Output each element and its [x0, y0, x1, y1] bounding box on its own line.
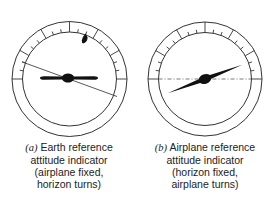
- scale-tick: [251, 70, 254, 71]
- scale-tick: [93, 29, 98, 38]
- scale-tick: [228, 30, 233, 39]
- scale-tick: [213, 30, 214, 33]
- scale-tick: [177, 30, 182, 39]
- scale-tick: [196, 30, 197, 33]
- caption-line: Airplane reference: [169, 141, 255, 153]
- scale-tick: [158, 62, 161, 63]
- airplane-symbol: [40, 74, 98, 83]
- scale-tick: [110, 50, 119, 55]
- scale-tick: [78, 29, 79, 32]
- scale-tick: [241, 47, 244, 49]
- caption-panel-b: (b) Airplane reference attitude indicato…: [143, 141, 267, 190]
- scale-tick: [245, 51, 254, 56]
- scale-tick: [114, 62, 117, 63]
- caption-title: (b) Airplane reference: [143, 141, 267, 154]
- scale-tick: [20, 50, 29, 55]
- scale-tick: [249, 62, 252, 63]
- scale-tick: [31, 47, 34, 49]
- caption-line: horizon turns): [8, 178, 130, 190]
- caption-line: (horizon fixed,: [143, 166, 267, 178]
- scale-tick: [41, 29, 46, 38]
- earth-reference-indicator: [12, 22, 127, 137]
- bank-scale-ticks: [148, 22, 262, 79]
- caption-line: Earth reference: [40, 141, 112, 153]
- scale-tick: [156, 51, 165, 56]
- bank-scale-ticks: [12, 22, 127, 80]
- caption-line: attitude indicator: [143, 154, 267, 166]
- scale-tick: [100, 40, 102, 43]
- scale-tick: [156, 70, 159, 71]
- scale-tick: [116, 70, 119, 71]
- scale-tick: [221, 32, 222, 35]
- scale-tick: [37, 40, 39, 43]
- caption-panel-a: (a) Earth reference attitude indicator (…: [8, 141, 130, 190]
- caption-title: (a) Earth reference: [8, 141, 130, 154]
- scale-tick: [20, 70, 23, 71]
- scale-tick: [188, 32, 189, 35]
- scale-tick: [173, 41, 175, 44]
- panel-label: (b): [155, 142, 167, 153]
- airplane-reference-indicator: [148, 22, 262, 136]
- scale-tick: [52, 32, 53, 35]
- scale-tick: [235, 41, 237, 44]
- scale-tick: [106, 47, 109, 49]
- scale-tick: [167, 47, 170, 49]
- caption-line: airplane turns): [143, 178, 267, 190]
- scale-tick: [61, 29, 62, 32]
- panel-label: (a): [25, 142, 37, 153]
- caption-line: attitude indicator: [8, 154, 130, 166]
- caption-line: (airplane fixed,: [8, 166, 130, 178]
